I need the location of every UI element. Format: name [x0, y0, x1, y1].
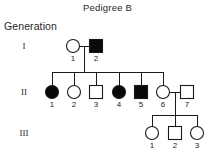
individual-III-2[interactable]: 2: [169, 115, 182, 150]
individual-II-3[interactable]: 3: [90, 72, 103, 109]
individual-id-label: 2: [173, 141, 178, 150]
individual-id-label: 1: [50, 100, 55, 109]
female-symbol-unaffected[interactable]: [67, 40, 80, 53]
male-symbol-unaffected[interactable]: [90, 86, 103, 99]
individual-id-label: 6: [161, 100, 166, 109]
individual-id-label: 4: [117, 100, 122, 109]
female-symbol-affected[interactable]: [113, 86, 126, 99]
individual-id-label: 1: [150, 141, 155, 150]
individual-II-7[interactable]: 7: [181, 86, 194, 110]
individual-id-label: 3: [195, 141, 200, 150]
female-symbol-unaffected[interactable]: [157, 86, 170, 99]
individual-II-1[interactable]: 1: [46, 72, 59, 109]
individual-id-label: 2: [72, 100, 77, 109]
individual-III-3[interactable]: 3: [191, 115, 204, 150]
individual-id-label: 2: [94, 54, 99, 63]
female-symbol-unaffected[interactable]: [68, 86, 81, 99]
individual-II-2[interactable]: 2: [68, 72, 81, 109]
male-symbol-unaffected[interactable]: [169, 127, 182, 140]
male-symbol-unaffected[interactable]: [181, 86, 194, 99]
individual-I-1[interactable]: 1: [67, 40, 80, 64]
individual-II-4[interactable]: 4: [113, 72, 126, 109]
individual-III-1[interactable]: 1: [146, 115, 159, 150]
individual-I-2[interactable]: 2: [90, 40, 103, 64]
individual-II-5[interactable]: 5: [135, 72, 148, 109]
individual-id-label: 7: [185, 100, 190, 109]
female-symbol-affected[interactable]: [46, 86, 59, 99]
female-symbol-unaffected[interactable]: [191, 127, 204, 140]
male-symbol-affected[interactable]: [135, 86, 148, 99]
individual-id-label: 5: [139, 100, 144, 109]
pedigree-diagram: Pedigree B Generation I II III 121234567…: [0, 0, 215, 163]
individual-id-label: 3: [94, 100, 99, 109]
pedigree-canvas: 121234567123: [0, 0, 215, 163]
individual-id-label: 1: [71, 54, 76, 63]
individual-II-6[interactable]: 6: [157, 72, 170, 109]
male-symbol-affected[interactable]: [90, 40, 103, 53]
individual-symbols: 121234567123: [46, 40, 204, 151]
female-symbol-unaffected[interactable]: [146, 127, 159, 140]
